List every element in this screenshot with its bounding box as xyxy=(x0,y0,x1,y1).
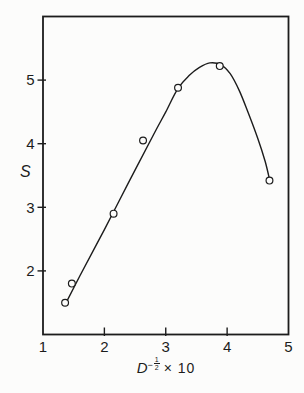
data-point-marker xyxy=(266,177,273,184)
x-axis-title: D−12× 10 xyxy=(43,356,289,377)
fraction-denominator: 2 xyxy=(154,364,160,371)
fraction-numerator: 1 xyxy=(154,356,160,364)
data-point-marker xyxy=(175,84,182,91)
y-tick-label: 3 xyxy=(26,199,34,216)
data-point-marker xyxy=(62,299,69,306)
data-point-marker xyxy=(216,63,223,70)
y-tick-label: 4 xyxy=(26,135,34,152)
fit-curve xyxy=(65,63,269,305)
chart-canvas: 123452345 xyxy=(0,0,304,393)
figure: 123452345 S D−12× 10 xyxy=(0,0,304,393)
x-tick-label: 5 xyxy=(284,338,292,355)
plot-frame xyxy=(43,17,289,335)
x-tick-label: 1 xyxy=(39,338,47,355)
y-tick-label: 2 xyxy=(26,262,34,279)
x-tick-label: 2 xyxy=(100,338,108,355)
x-axis-variable: D xyxy=(137,359,148,376)
exponent-fraction: 12 xyxy=(154,356,160,372)
data-point-marker xyxy=(110,210,117,217)
data-point-marker xyxy=(140,137,147,144)
x-tick-label: 3 xyxy=(162,338,170,355)
y-tick-label: 5 xyxy=(26,71,34,88)
x-axis-exponent: −12 xyxy=(148,360,160,370)
y-axis-title: S xyxy=(20,163,31,181)
data-point-marker xyxy=(68,280,75,287)
x-tick-label: 4 xyxy=(223,338,231,355)
x-axis-multiplier: × 10 xyxy=(164,360,196,376)
